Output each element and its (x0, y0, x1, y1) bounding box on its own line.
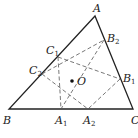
label-b: B (2, 114, 11, 127)
label-a2: A2 (82, 114, 95, 128)
triangle-abc (9, 16, 133, 109)
label-b2: B2 (106, 32, 120, 46)
label-o: O (77, 75, 86, 88)
label-a1: A1 (54, 114, 67, 128)
label-b1: B1 (122, 72, 136, 86)
center-point-o (70, 79, 74, 83)
label-a: A (92, 2, 101, 15)
label-c: C (131, 114, 138, 127)
label-c2: C2 (29, 64, 42, 78)
label-c1: C1 (46, 44, 59, 58)
segment-b1-a2 (88, 79, 120, 109)
geometry-diagram: A B C A1 A2 B1 B2 C1 C2 O (0, 0, 138, 138)
